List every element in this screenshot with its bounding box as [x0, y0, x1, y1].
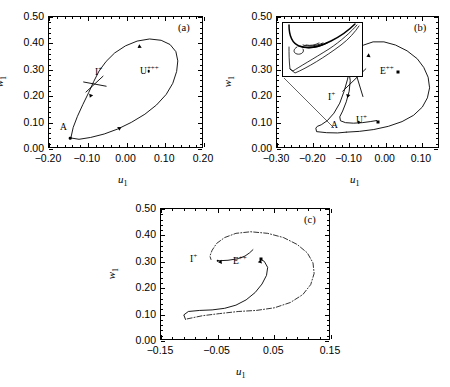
curve-heteroclinic-connection: [184, 259, 268, 319]
tick-mark: [49, 149, 53, 150]
y-tick-label: 0.10: [118, 308, 156, 320]
panel-b-label-U: U+: [356, 114, 367, 126]
panel-b-label-I: I+: [328, 91, 335, 103]
equilibrium-marker: [377, 120, 380, 123]
x-tick-label: 0.00: [115, 152, 135, 164]
y-tick-label: 0.50: [6, 10, 44, 22]
x-tick-label: 0.05: [263, 344, 283, 356]
y-tick-label: 0.50: [118, 202, 156, 214]
y-tick-label: 0.30: [118, 255, 156, 267]
y-tick-label: 0.40: [118, 228, 156, 240]
tick-mark: [161, 341, 165, 342]
x-tick-label: −0.20: [299, 152, 326, 164]
flow-direction-arrow: [346, 94, 350, 98]
y-tick-label: 0.00: [6, 142, 44, 154]
y-tick-label: 0.10: [234, 116, 272, 128]
curve-homoclinic-orbit: [71, 39, 178, 139]
equilibrium-marker: [69, 137, 72, 140]
tick-mark: [331, 209, 332, 213]
panel-b-label-A: A: [331, 121, 338, 131]
curve-unstable-manifold-segment: [86, 76, 103, 92]
y-tick-label: 0.40: [234, 36, 272, 48]
figure-phase-portraits: (a) I+ U+++ A w1 u1 −0.20−0.100.000.100.…: [0, 0, 450, 387]
y-tick-label: 0.20: [6, 89, 44, 101]
tick-mark: [331, 335, 332, 339]
equilibrium-marker: [217, 260, 220, 263]
inset-curve: [294, 47, 304, 54]
y-tick-label: 0.50: [234, 10, 272, 22]
panel-a-xlabel: u1: [118, 173, 128, 188]
y-tick-label: 0.00: [118, 334, 156, 346]
panel-b-inset: [282, 22, 363, 77]
tick-mark: [325, 341, 329, 342]
x-tick-label: −0.05: [203, 344, 230, 356]
tick-mark: [204, 143, 205, 147]
equilibrium-marker: [397, 70, 400, 73]
panel-b: (b) I+ E++ U+ A w1 u1 −0.30−0.20−0.100.0…: [228, 8, 450, 188]
x-tick-label: −0.10: [73, 152, 100, 164]
panel-b-ylabel: w1: [221, 76, 236, 87]
y-tick-label: 0.20: [118, 281, 156, 293]
panel-c-curves: [160, 208, 330, 340]
panel-a-label-A: A: [60, 123, 67, 133]
panel-a-curves: [48, 16, 203, 148]
panel-c-ylabel: w1: [105, 268, 120, 279]
panel-c: (c) I+ E++ w1 u1 −0.15−0.050.050.150.000…: [108, 198, 348, 387]
y-tick-label: 0.40: [6, 36, 44, 48]
y-tick-label: 0.00: [234, 142, 272, 154]
x-tick-label: 0.10: [411, 152, 431, 164]
x-tick-label: 0.20: [193, 152, 213, 164]
tick-mark: [434, 149, 438, 150]
x-tick-label: 0.00: [374, 152, 394, 164]
curve-outer-periodic-orbit: [187, 232, 314, 319]
equilibrium-marker: [357, 121, 360, 124]
panel-a-ylabel: w1: [0, 76, 8, 87]
panel-b-xlabel: u1: [350, 173, 360, 188]
inset-connector-line: [284, 78, 334, 128]
tick-mark: [198, 149, 202, 150]
x-tick-label: 0.15: [320, 344, 340, 356]
flow-direction-arrow: [138, 44, 142, 48]
y-tick-label: 0.10: [6, 116, 44, 128]
y-tick-label: 0.30: [6, 63, 44, 75]
panel-c-label-E: E++: [233, 255, 247, 267]
x-tick-label: 0.10: [154, 152, 174, 164]
equilibrium-marker: [147, 70, 150, 73]
tick-mark: [204, 17, 205, 21]
panel-a-label-I: I+: [95, 66, 102, 78]
panel-a: (a) I+ U+++ A w1 u1 −0.20−0.100.000.100.…: [0, 8, 216, 188]
panel-b-inset-curves: [283, 23, 362, 76]
flow-direction-arrow: [366, 53, 370, 57]
y-tick-label: 0.20: [234, 89, 272, 101]
panel-c-xlabel: u1: [236, 365, 246, 380]
tick-mark: [277, 149, 281, 150]
panel-c-label-I: I+: [190, 253, 197, 265]
x-tick-label: −0.10: [335, 152, 362, 164]
equilibrium-marker: [259, 258, 262, 261]
panel-b-label-E: E++: [380, 65, 394, 77]
y-tick-label: 0.30: [234, 63, 272, 75]
flow-direction-arrow: [89, 94, 93, 98]
